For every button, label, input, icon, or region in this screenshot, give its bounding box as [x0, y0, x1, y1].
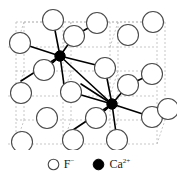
filled-circle-icon — [92, 158, 105, 171]
f-ion — [158, 99, 178, 120]
f-ion — [63, 130, 84, 151]
lattice-diagram — [0, 0, 177, 150]
f-ion — [107, 130, 128, 151]
f-ion — [143, 12, 164, 33]
legend-charge-f: − — [70, 157, 74, 165]
grid-d-2 — [110, 22, 118, 47]
legend-charge-ca: 2+ — [123, 157, 130, 165]
legend-symbol-ca: Ca — [109, 157, 122, 171]
f-ion — [61, 82, 82, 103]
ca-ion — [55, 51, 65, 61]
f-ion — [37, 108, 58, 129]
unit-cell-grid — [8, 22, 165, 144]
f-ion — [10, 33, 31, 54]
crystal-structure-figure: F− Ca2+ — [0, 0, 177, 178]
f-ion — [118, 25, 139, 46]
open-circle-icon — [47, 158, 60, 171]
legend-item-fluoride: F− — [47, 158, 75, 171]
f-ion — [43, 10, 64, 31]
fluoride-ions — [10, 10, 178, 151]
legend-label-fluoride: F− — [64, 158, 75, 170]
f-ion — [11, 83, 32, 104]
f-ion — [34, 60, 55, 81]
f-ion — [64, 26, 85, 47]
f-ion — [86, 108, 107, 129]
f-ion — [142, 64, 163, 85]
legend: F− Ca2+ — [0, 150, 177, 178]
f-ion — [118, 75, 139, 96]
legend-label-calcium: Ca2+ — [109, 158, 130, 170]
f-ion — [87, 13, 108, 34]
legend-item-calcium: Ca2+ — [92, 158, 130, 171]
f-ion — [95, 58, 116, 79]
f-ion — [12, 132, 33, 151]
ca-ion — [107, 99, 117, 109]
